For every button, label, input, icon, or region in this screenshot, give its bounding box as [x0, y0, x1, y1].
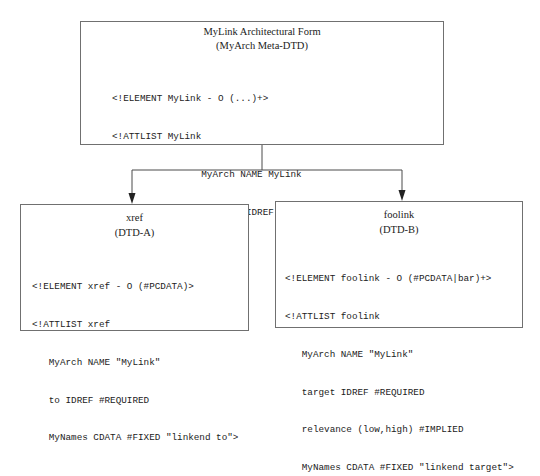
code-line: <!ELEMENT MyLink - O (...)+> — [112, 93, 335, 106]
box-subtitle: (DTD-B) — [276, 223, 522, 237]
code-line: MyNames CDATA #FIXED "linkend to"> — [32, 432, 238, 445]
foolink-dtd-b-box: foolink (DTD-B) <!ELEMENT foolink - O (#… — [275, 201, 523, 328]
architectural-form-box: MyLink Architectural Form (MyArch Meta-D… — [80, 21, 444, 145]
code-line: MyArch NAME MyLink — [112, 169, 335, 182]
code-line: relevance (low,high) #IMPLIED — [285, 424, 514, 437]
code-block: <!ELEMENT xref - O (#PCDATA)> <!ATTLIST … — [32, 256, 238, 470]
box-subtitle: (DTD-A) — [21, 226, 248, 240]
code-line: MyArch NAME "MyLink" — [32, 357, 238, 370]
box-title: MyLink Architectural Form — [81, 25, 443, 39]
code-line: to IDREF #REQUIRED — [32, 395, 238, 408]
code-line: <!ATTLIST MyLink — [112, 131, 335, 144]
box-title: foolink — [276, 208, 522, 222]
code-block: <!ELEMENT foolink - O (#PCDATA|bar)+> <!… — [285, 248, 514, 476]
code-line: MyArch NAME "MyLink" — [285, 349, 514, 362]
code-line: target IDREF #REQUIRED — [285, 387, 514, 400]
code-line: MyNames CDATA #FIXED "linkend target"> — [285, 462, 514, 475]
code-line: <!ELEMENT foolink - O (#PCDATA|bar)+> — [285, 273, 514, 286]
code-line: <!ATTLIST xref — [32, 319, 238, 332]
box-title: xref — [21, 211, 248, 225]
arrowhead-right-icon — [399, 190, 406, 201]
box-subtitle: (MyArch Meta-DTD) — [81, 39, 443, 53]
xref-dtd-a-box: xref (DTD-A) <!ELEMENT xref - O (#PCDATA… — [20, 204, 249, 331]
code-line: <!ELEMENT xref - O (#PCDATA)> — [32, 281, 238, 294]
code-line: <!ATTLIST foolink — [285, 311, 514, 324]
